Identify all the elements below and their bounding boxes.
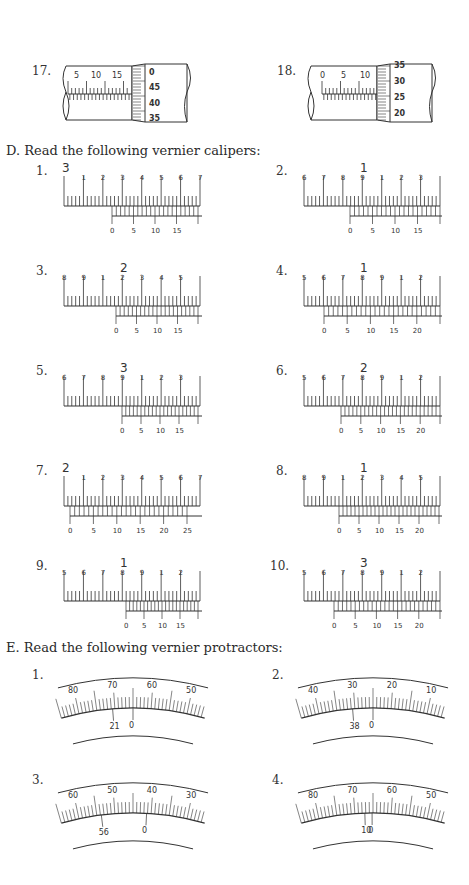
- vernier-scale-label: 20: [416, 427, 425, 435]
- main-scale-label: 1: [399, 569, 403, 577]
- sleeve-label: 15: [112, 71, 122, 80]
- main-scale-label: 2: [399, 174, 403, 182]
- main-scale-label: 6: [62, 374, 67, 382]
- vernier-caliper-figure: 2567891205101520: [302, 368, 452, 448]
- main-scale-label: 8: [360, 374, 364, 382]
- main-scale-label: 1: [399, 374, 403, 382]
- main-scale-label: 9: [120, 374, 124, 382]
- main-scale-label: 7: [321, 174, 325, 182]
- vernier-scale-label: 5: [359, 427, 363, 435]
- problem-number-17: 17.: [32, 64, 51, 78]
- vernier-scale-label: 25: [183, 527, 192, 535]
- vernier-scale-label: 10: [377, 427, 386, 435]
- sleeve-label: 0: [320, 71, 325, 80]
- protractor-scale-label: 50: [186, 686, 196, 695]
- protractor-vernier-label: 0: [129, 721, 134, 730]
- main-scale-label: 3: [140, 274, 144, 282]
- main-scale-label: 1: [140, 374, 144, 382]
- main-scale-label: 2: [179, 569, 183, 577]
- vernier-caliper-figure: 28912345051015: [62, 268, 212, 348]
- vernier-scale-label: 5: [353, 622, 357, 630]
- vernier-caliper-figure: 36789123051015: [62, 368, 212, 448]
- caliper-problem-number: 5.: [36, 364, 47, 378]
- vernier-caliper-figure: 15678912051015: [62, 563, 212, 643]
- vernier-scale-label: 10: [158, 622, 167, 630]
- main-scale-label: 7: [198, 174, 202, 182]
- vernier-scale-label: 0: [348, 227, 352, 235]
- protractor-scale-label: 80: [308, 791, 318, 800]
- protractor-scale-label: 30: [347, 681, 357, 690]
- main-scale-label: 1: [81, 174, 85, 182]
- main-scale-label: 7: [101, 569, 105, 577]
- main-scale-label: 9: [380, 274, 384, 282]
- main-scale-label: 7: [341, 374, 345, 382]
- main-scale-label: 8: [120, 569, 124, 577]
- vernier-scale-label: 20: [413, 327, 422, 335]
- vernier-scale-label: 20: [160, 527, 169, 535]
- protractor-vernier-label: 0: [368, 826, 373, 835]
- main-scale-label: 7: [341, 569, 345, 577]
- protractor-scale-label: 70: [347, 786, 357, 795]
- main-scale-label: 2: [419, 374, 423, 382]
- main-scale-label: 3: [380, 474, 384, 482]
- vernier-caliper-figure: 1891234505101520: [302, 468, 452, 548]
- vernier-protractor-figure: 80706050100: [298, 777, 448, 867]
- main-scale-label: 5: [302, 569, 306, 577]
- protractor-scale-label: 40: [147, 786, 157, 795]
- main-scale-label: 9: [380, 374, 384, 382]
- vernier-scale-label: 15: [414, 227, 423, 235]
- main-scale-label: 8: [101, 374, 105, 382]
- protractor-vernier-label: 0: [142, 826, 147, 835]
- vernier-scale-label: 5: [345, 327, 349, 335]
- vernier-scale-label: 0: [68, 527, 72, 535]
- thimble-label: 25: [394, 93, 406, 102]
- caliper-big-label: 1: [360, 461, 368, 475]
- vernier-scale-label: 0: [337, 527, 341, 535]
- main-scale-label: 2: [101, 474, 105, 482]
- vernier-scale-label: 5: [132, 227, 136, 235]
- main-scale-label: 1: [380, 174, 384, 182]
- vernier-scale-label: 15: [173, 227, 182, 235]
- protractor-vernier-label: 21: [110, 722, 120, 731]
- caliper-problem-number: 8.: [276, 464, 287, 478]
- protractor-scale-label: 60: [68, 791, 78, 800]
- main-scale-label: 1: [159, 569, 163, 577]
- protractor-scale-label: 70: [107, 681, 117, 690]
- main-scale-label: 5: [159, 174, 163, 182]
- main-scale-label: 2: [419, 569, 423, 577]
- vernier-scale-label: 15: [395, 527, 404, 535]
- vernier-scale-label: 0: [124, 622, 128, 630]
- micrometer-18-figure: 0 5 10 35 30 25 20: [305, 64, 445, 126]
- vernier-scale-label: 0: [120, 427, 124, 435]
- section-d-heading: D. Read the following vernier calipers:: [6, 143, 261, 158]
- main-scale-label: 7: [341, 274, 345, 282]
- vernier-scale-label: 10: [375, 527, 384, 535]
- sleeve-label: 10: [360, 71, 370, 80]
- protractor-vernier-label: 0: [369, 721, 374, 730]
- protractor-scale-label: 40: [308, 686, 318, 695]
- caliper-big-label: 1: [360, 161, 368, 175]
- main-scale-label: 7: [198, 474, 202, 482]
- main-scale-label: 6: [81, 569, 86, 577]
- vernier-protractor-figure: 80706050210: [58, 672, 208, 762]
- vernier-caliper-figure: 16789123051015: [302, 168, 452, 248]
- protractor-scale-label: 60: [387, 786, 397, 795]
- vernier-protractor-figure: 60504030560: [58, 777, 208, 867]
- caliper-big-label: 3: [360, 556, 368, 570]
- vernier-scale-label: 0: [339, 427, 343, 435]
- caliper-problem-number: 6.: [276, 364, 287, 378]
- caliper-problem-number: 4.: [276, 264, 287, 278]
- protractor-problem-number: 3.: [32, 773, 43, 787]
- thimble-label: 45: [149, 83, 161, 92]
- vernier-scale-label: 15: [136, 527, 145, 535]
- thimble-label: 30: [394, 77, 406, 86]
- main-scale-label: 6: [321, 274, 326, 282]
- caliper-problem-number: 9.: [36, 559, 47, 573]
- thimble-label: 35: [149, 114, 161, 123]
- main-scale-label: 1: [399, 274, 403, 282]
- section-e-heading: E. Read the following vernier protractor…: [6, 640, 283, 655]
- vernier-scale-label: 5: [139, 427, 143, 435]
- main-scale-label: 6: [321, 374, 326, 382]
- vernier-scale-label: 20: [415, 622, 424, 630]
- vernier-caliper-figure: 31234567051015: [62, 168, 212, 248]
